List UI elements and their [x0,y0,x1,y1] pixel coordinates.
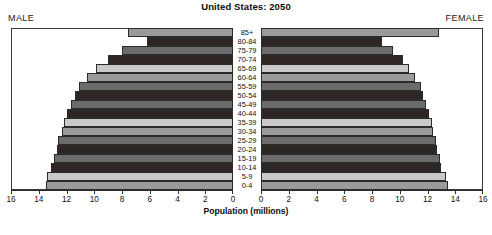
age-group-label-65-69: 65-69 [233,64,261,73]
table-row [261,172,483,181]
age-group-label-0-4: 0-4 [233,181,261,190]
female-bar-0-4 [261,181,448,190]
male-bar-70-74 [108,55,233,64]
table-row [261,28,483,37]
age-group-label-10-14: 10-14 [233,163,261,172]
table-row [261,46,483,55]
table-row [261,37,483,46]
table-row [11,91,233,100]
age-group-label-45-49: 45-49 [233,100,261,109]
male-tick-label-14: 14 [28,195,50,204]
table-row [11,127,233,136]
female-tick-label-0: 0 [250,195,272,204]
male-bar-20-24 [57,145,233,154]
male-bar-55-59 [79,82,233,91]
table-row [11,145,233,154]
table-row [261,118,483,127]
table-row [261,82,483,91]
male-tick [67,190,68,194]
x-axis-title: Population (millions) [0,206,492,216]
female-bar-85plus [261,28,439,37]
age-group-label-20-24: 20-24 [233,145,261,154]
female-tick-label-16: 16 [472,195,492,204]
table-row [261,91,483,100]
age-group-label-50-54: 50-54 [233,91,261,100]
female-tick-label-10: 10 [389,195,411,204]
male-tick [122,190,123,194]
male-bar-75-79 [122,46,233,55]
table-row [11,55,233,64]
female-tick [317,190,318,194]
male-bar-10-14 [51,163,233,172]
age-group-label-35-39: 35-39 [233,118,261,127]
female-tick [400,190,401,194]
age-group-label-15-19: 15-19 [233,154,261,163]
male-bar-15-19 [54,154,233,163]
male-tick [205,190,206,194]
male-tick-label-12: 12 [56,195,78,204]
age-group-label-70-74: 70-74 [233,55,261,64]
table-row [261,109,483,118]
table-row [11,82,233,91]
age-group-labels: 85+80-8475-7970-7465-6960-6455-5950-5445… [233,28,261,190]
page-title: United States: 2050 [0,1,492,12]
male-bars-panel [11,28,233,190]
table-row [261,145,483,154]
table-row [11,172,233,181]
male-tick-label-2: 2 [194,195,216,204]
table-row [261,136,483,145]
table-row [11,109,233,118]
female-tick [482,190,483,194]
female-tick-label-12: 12 [417,195,439,204]
table-row [261,55,483,64]
female-bar-80-84 [261,37,382,46]
male-bar-30-34 [62,127,233,136]
female-tick [289,190,290,194]
male-bar-35-39 [64,118,233,127]
male-bar-85plus [128,28,233,37]
female-bar-10-14 [261,163,441,172]
male-tick [11,190,12,194]
population-pyramid-chart: United States: 2050 MALE FEMALE 85+80-84… [0,0,492,235]
age-group-label-80-84: 80-84 [233,37,261,46]
female-bar-5-9 [261,172,446,181]
male-tick-label-10: 10 [83,195,105,204]
table-row [261,163,483,172]
female-side-label: FEMALE [446,13,484,23]
age-group-label-25-29: 25-29 [233,136,261,145]
male-tick-label-16: 16 [0,195,22,204]
age-group-label-40-44: 40-44 [233,109,261,118]
male-tick-label-0: 0 [222,195,244,204]
female-tick-label-4: 4 [306,195,328,204]
male-bar-5-9 [47,172,233,181]
male-bar-0-4 [46,181,233,190]
table-row [11,28,233,37]
table-row [11,163,233,172]
table-row [261,73,483,82]
female-tick [455,190,456,194]
female-bar-55-59 [261,82,421,91]
table-row [11,100,233,109]
female-bar-40-44 [261,109,429,118]
female-bar-35-39 [261,118,432,127]
female-tick-label-2: 2 [278,195,300,204]
female-bar-30-34 [261,127,433,136]
male-tick-label-6: 6 [139,195,161,204]
male-bar-80-84 [147,37,233,46]
table-row [11,64,233,73]
table-row [11,46,233,55]
female-bar-60-64 [261,73,415,82]
female-bar-20-24 [261,145,437,154]
male-tick-label-4: 4 [167,195,189,204]
male-bar-50-54 [75,91,233,100]
male-side-label: MALE [8,13,34,23]
table-row [261,181,483,190]
male-bar-60-64 [87,73,233,82]
age-group-label-30-34: 30-34 [233,127,261,136]
female-tick-label-14: 14 [444,195,466,204]
age-group-label-55-59: 55-59 [233,82,261,91]
female-tick-label-8: 8 [361,195,383,204]
male-bar-40-44 [67,109,234,118]
female-bar-45-49 [261,100,426,109]
female-bar-70-74 [261,55,403,64]
